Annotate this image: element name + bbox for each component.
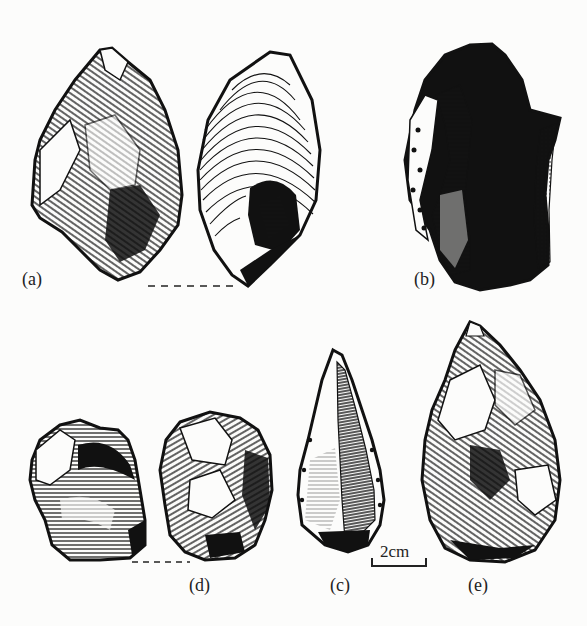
tool-c (298, 350, 384, 552)
label-c: (c) (330, 576, 350, 594)
tool-d-face-2 (160, 412, 272, 560)
tool-e (422, 322, 560, 562)
scale-bar-label: 2cm (380, 543, 409, 560)
label-b: (b) (414, 270, 435, 288)
drawings-canvas (0, 0, 587, 626)
label-e: (e) (468, 576, 488, 594)
label-d: (d) (189, 576, 210, 594)
label-a: (a) (22, 270, 42, 288)
tool-a-dorsal-face (32, 48, 182, 280)
tool-d-face-1 (30, 420, 145, 560)
tool-a-ventral-face (198, 52, 320, 286)
tool-b (405, 44, 560, 290)
lithic-figure: 2cm (a) (b) (d) (c) (e) (0, 0, 587, 626)
